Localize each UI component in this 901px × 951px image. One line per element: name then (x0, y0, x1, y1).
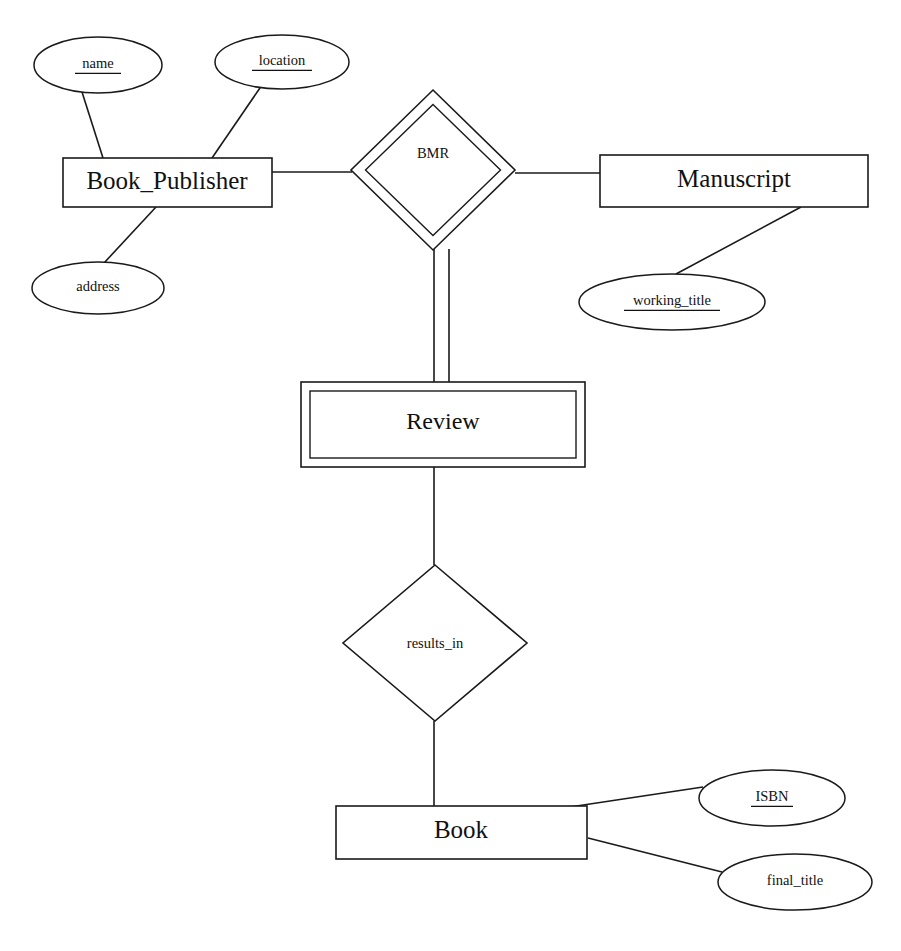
attribute-label-name: name (82, 55, 113, 71)
entity-label-manuscript: Manuscript (677, 165, 791, 192)
attribute-label-address: address (76, 278, 120, 294)
connector-name-to-publisher (82, 92, 103, 158)
attribute-working-title[interactable]: working_title (579, 274, 765, 330)
connector-location-to-publisher (212, 85, 262, 158)
attribute-label-isbn: ISBN (755, 788, 789, 804)
attribute-label-final-title: final_title (767, 872, 823, 888)
relationship-results-in[interactable]: results_in (343, 565, 527, 721)
entity-label-book-publisher: Book_Publisher (86, 167, 248, 194)
attribute-location[interactable]: location (215, 35, 349, 89)
weak-entity-label-review: Review (406, 408, 480, 434)
entity-book[interactable]: Book (336, 806, 587, 859)
connector-book-to-isbn (570, 787, 703, 807)
attribute-isbn[interactable]: ISBN (699, 770, 845, 826)
attribute-final-title[interactable]: final_title (718, 854, 872, 910)
relationship-diamond-bmr-outer[interactable] (351, 90, 515, 250)
connector-book-to-final-title (588, 838, 722, 872)
attribute-address[interactable]: address (32, 262, 164, 314)
connector-publisher-to-address (104, 207, 156, 263)
connector-manuscript-to-working-title (676, 207, 801, 274)
er-diagram-canvas: Book_Publisher Manuscript Review Book BM… (0, 0, 901, 951)
relationship-label-bmr: BMR (417, 145, 450, 161)
attribute-label-location: location (259, 52, 306, 68)
relationship-label-results-in: results_in (407, 635, 464, 651)
attribute-name[interactable]: name (34, 37, 162, 93)
entity-manuscript[interactable]: Manuscript (600, 155, 868, 207)
weak-entity-review[interactable]: Review (301, 382, 585, 467)
entity-label-book: Book (434, 816, 489, 843)
entity-book-publisher[interactable]: Book_Publisher (63, 158, 272, 207)
attribute-label-working-title: working_title (633, 292, 711, 308)
relationship-bmr[interactable]: BMR (351, 90, 515, 250)
